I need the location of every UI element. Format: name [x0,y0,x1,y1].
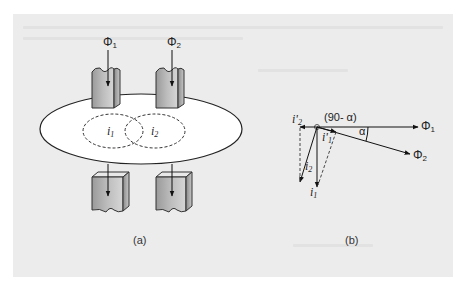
caption-a: (a) [133,235,146,246]
phi2-label-b: Φ2 [413,149,427,163]
upper-pole-1 [92,68,120,108]
i1-loop-label: i1 [107,125,114,139]
phi1-label-a: Φ1 [103,36,117,50]
alpha-label: α [359,126,365,137]
i2-loop-label: i2 [151,125,158,139]
upper-pole-2 [156,68,184,108]
i1-label-b: i1 [310,186,317,200]
diagram-svg [0,0,466,289]
i2-prime-label: i'2 [292,113,302,127]
i1-prime-label: i'1 [322,131,332,145]
angle-90-minus-alpha: (90- α) [324,112,357,123]
i2-label-b: i2 [305,160,312,174]
phi2-label-a: Φ2 [167,36,181,50]
lower-pole-1 [92,172,129,212]
phi1-label-b: Φ1 [421,120,435,134]
lower-pole-2 [156,172,192,212]
caption-b: (b) [345,235,358,246]
disc [40,94,242,164]
